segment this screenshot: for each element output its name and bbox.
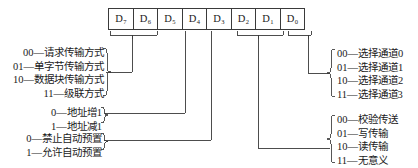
- address-direction-annotation: 0—地址增1 1—地址减1: [14, 106, 102, 133]
- bit-cell-d7[interactable]: D7: [108, 8, 134, 30]
- transfer-mode-line-3: 11—级联方式: [4, 87, 104, 101]
- leader-preset: [104, 31, 211, 140]
- bit-label-d6: D6: [140, 14, 151, 25]
- transfer-type-annotation: 00—校验传送 01—写传输 10—读传输 11—无意义: [337, 113, 415, 167]
- channel-select-line-0: 00—选择通道0: [337, 47, 415, 61]
- bit-cell-d0[interactable]: D0: [280, 8, 306, 30]
- bit-label-d5: D5: [164, 14, 175, 25]
- bit-label-d7: D7: [115, 14, 126, 25]
- auto-preset-line-0: 0—禁止自动预置: [4, 132, 102, 146]
- transfer-type-line-2: 10—读传输: [337, 140, 415, 154]
- channel-select-line-1: 01—选择通道1: [337, 61, 415, 75]
- address-direction-line-0: 0—地址增1: [14, 106, 102, 120]
- brace-d1d0: [288, 31, 311, 39]
- channel-select-line-2: 10—选择通道2: [337, 74, 415, 88]
- transfer-mode-annotation: 00—请求传输方式 01—单字节传输方式 10—数据块传输方式 11—级联方式: [4, 46, 104, 100]
- brace-d7d6: [110, 31, 157, 39]
- brace-channel-text: [327, 49, 335, 97]
- brace-preset-text: [101, 133, 108, 150]
- register-byte: D7 D6 D5 D4 D3 D2 D1 D0: [108, 8, 304, 30]
- bit-cell-d3[interactable]: D3: [206, 8, 232, 30]
- transfer-mode-line-1: 01—单字节传输方式: [4, 60, 104, 74]
- bit-cell-d1[interactable]: D1: [255, 8, 281, 30]
- transfer-type-line-3: 11—无意义: [337, 154, 415, 168]
- bit-label-d3: D3: [213, 14, 224, 25]
- auto-preset-line-1: 1—允许自动预置: [4, 146, 102, 160]
- brace-transfer-text: [327, 115, 335, 163]
- bit-field-diagram: D7 D6 D5 D4 D3 D2 D1 D0 00—请求传输方式 01—单字节…: [0, 0, 418, 168]
- leader-channel: [308, 39, 330, 73]
- bit-label-d1: D1: [262, 14, 273, 25]
- bit-cell-d4[interactable]: D4: [182, 8, 208, 30]
- bit-label-d0: D0: [287, 14, 298, 25]
- bit-label-d2: D2: [238, 14, 249, 25]
- leader-transfer: [258, 39, 330, 148]
- bit-cell-d2[interactable]: D2: [231, 8, 257, 30]
- auto-preset-annotation: 0—禁止自动预置 1—允许自动预置: [4, 132, 102, 159]
- transfer-type-line-0: 00—校验传送: [337, 113, 415, 127]
- bit-cell-d5[interactable]: D5: [157, 8, 183, 30]
- transfer-mode-line-2: 10—数据块传输方式: [4, 73, 104, 87]
- channel-select-line-3: 11—选择通道3: [337, 88, 415, 102]
- address-direction-line-1: 1—地址减1: [14, 120, 102, 134]
- bit-cell-d6[interactable]: D6: [133, 8, 159, 30]
- leader-mode: [106, 39, 132, 72]
- brace-d3d2: [237, 31, 283, 39]
- channel-select-annotation: 00—选择通道0 01—选择通道1 10—选择通道2 11—选择通道3: [337, 47, 415, 101]
- transfer-mode-line-0: 00—请求传输方式: [4, 46, 104, 60]
- transfer-type-line-1: 01—写传输: [337, 127, 415, 141]
- brace-address-text: [101, 107, 108, 123]
- bit-label-d4: D4: [189, 14, 200, 25]
